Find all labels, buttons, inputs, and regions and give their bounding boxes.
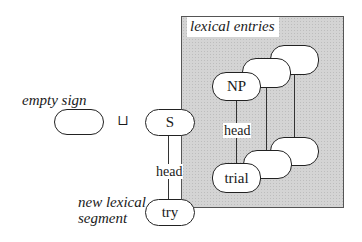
s-node: S (145, 109, 195, 136)
empty-sign-label: empty sign (22, 92, 87, 109)
middle-link-line (266, 86, 267, 151)
new-lexical-segment-label-line2: segment (78, 210, 127, 227)
try-label: try (162, 204, 179, 221)
unification-operator: ⊔ (117, 114, 129, 128)
empty-sign-node (54, 109, 104, 135)
s-try-head-label: head (155, 164, 183, 179)
np-label: NP (227, 78, 246, 95)
back-link-line (294, 72, 295, 138)
np-trial-head-label: head (223, 123, 251, 138)
lexical-entries-box (181, 16, 344, 208)
lexical-entries-label: lexical entries (187, 17, 279, 37)
trial-label: trial (224, 170, 248, 187)
try-node: try (145, 199, 195, 226)
np-node: NP (212, 72, 261, 101)
s-label: S (166, 114, 174, 131)
new-lexical-segment-label-line1: new lexical (78, 194, 146, 211)
trial-node: trial (212, 163, 261, 193)
